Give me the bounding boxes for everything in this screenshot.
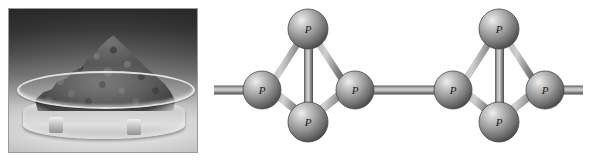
- atom-u2-left: P: [434, 71, 472, 109]
- atom-u2-bottom: P: [479, 102, 519, 142]
- photo-vignette: [9, 9, 197, 152]
- molecule-diagram: P P P P: [200, 0, 597, 161]
- atom-label: P: [258, 84, 266, 96]
- atom-label: P: [495, 116, 503, 128]
- atom-u1-right: P: [336, 71, 374, 109]
- atom-label: P: [541, 84, 549, 96]
- atom-u1-top: P: [288, 9, 328, 49]
- molecule-svg: P P P P: [200, 0, 597, 161]
- figure-root: P P P P: [0, 0, 597, 161]
- phosphorus-photograph: [8, 8, 198, 153]
- tetrahedron-unit-2: P P P P: [434, 9, 564, 142]
- tetrahedron-unit-1: P P P P: [243, 9, 374, 142]
- atom-u2-right: P: [526, 71, 564, 109]
- atom-label: P: [449, 84, 457, 96]
- atom-label: P: [304, 116, 312, 128]
- atom-u1-left: P: [243, 71, 281, 109]
- atom-label: P: [351, 84, 359, 96]
- atom-label: P: [304, 23, 312, 35]
- atom-label: P: [495, 23, 503, 35]
- atom-u2-top: P: [479, 9, 519, 49]
- atom-u1-bottom: P: [288, 102, 328, 142]
